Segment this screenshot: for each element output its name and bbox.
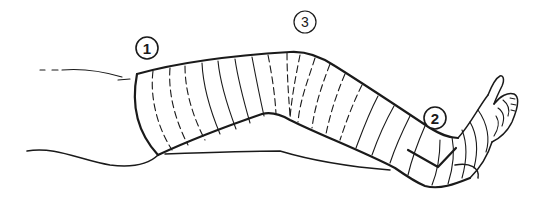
leg-illustration: 1 2 3: [0, 0, 541, 207]
callout-3: 3: [294, 11, 316, 33]
callout-1-label: 1: [143, 40, 151, 57]
callout-2: 2: [424, 107, 446, 129]
toes: [488, 76, 518, 142]
callout-1: 1: [136, 37, 158, 59]
foot-wraps: [408, 95, 492, 185]
callout-2-label: 2: [431, 110, 439, 127]
bandaged-leg-diagram: 1 2 3: [0, 0, 541, 207]
thigh-wraps: [152, 53, 290, 150]
callout-3-label: 3: [301, 14, 309, 30]
shin-wraps: [290, 55, 425, 175]
